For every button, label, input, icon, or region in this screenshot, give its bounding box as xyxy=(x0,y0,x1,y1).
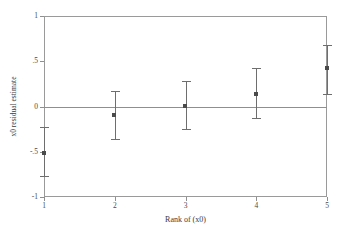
error-bar xyxy=(323,45,332,95)
error-bar-cap-upper xyxy=(323,45,332,46)
data-point-marker xyxy=(42,151,46,155)
data-point-marker xyxy=(112,113,116,117)
error-bar-cap-upper xyxy=(111,91,120,92)
error-bar-cap-upper xyxy=(182,81,191,82)
y-axis-tick-label: -1 xyxy=(0,193,38,201)
error-bar-cap-lower xyxy=(323,94,332,95)
error-bar-cap-upper xyxy=(252,68,261,69)
y-axis-tick-label: -.5 xyxy=(0,148,38,156)
error-bar xyxy=(182,81,191,130)
chart-figure: 1.50-.5-1 12345 x0 residual estimate Ran… xyxy=(0,0,344,234)
y-axis-tick-label: 1 xyxy=(0,12,38,20)
y-axis-tick-label: 0 xyxy=(0,103,38,111)
y-axis-tick xyxy=(40,61,44,62)
x-axis-title: Rank of (x0) xyxy=(44,215,327,224)
error-bar-cap-upper xyxy=(40,127,49,128)
y-axis-tick xyxy=(40,107,44,108)
x-axis-tick-label: 2 xyxy=(113,202,117,210)
y-axis-tick xyxy=(40,16,44,17)
x-axis-tick-label: 4 xyxy=(254,202,258,210)
error-bar-cap-lower xyxy=(111,139,120,140)
plot-area xyxy=(44,16,327,197)
data-point-marker xyxy=(254,92,258,96)
error-bar-cap-lower xyxy=(252,118,261,119)
error-bar xyxy=(111,91,120,140)
data-point-marker xyxy=(325,66,329,70)
error-bar xyxy=(40,127,49,177)
error-bar xyxy=(252,68,261,119)
x-axis-tick-label: 1 xyxy=(42,202,46,210)
x-axis-tick-label: 3 xyxy=(184,202,188,210)
error-bar-cap-lower xyxy=(182,129,191,130)
x-axis-tick-label: 5 xyxy=(325,202,329,210)
data-point-marker xyxy=(183,104,187,108)
error-bar-cap-lower xyxy=(40,176,49,177)
y-axis-tick-label: .5 xyxy=(0,58,38,66)
y-axis-title: x0 residual estimate xyxy=(9,16,18,197)
